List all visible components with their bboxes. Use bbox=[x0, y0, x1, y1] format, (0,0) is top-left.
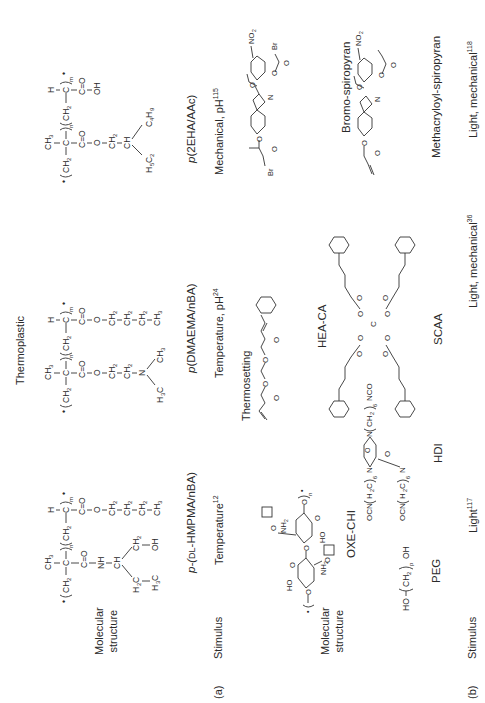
svg-text:C: C bbox=[61, 560, 71, 566]
thermoplastic-header: Thermoplastic bbox=[14, 316, 26, 385]
svg-text:C: C bbox=[398, 483, 407, 489]
svg-text:C: C bbox=[61, 317, 71, 323]
svg-text:H: H bbox=[365, 493, 374, 499]
svg-text:OH: OH bbox=[401, 546, 411, 559]
svg-text:H: H bbox=[131, 587, 141, 593]
svg-text:2: 2 bbox=[127, 500, 133, 504]
svg-text:CH: CH bbox=[122, 314, 132, 326]
svg-text:C: C bbox=[150, 575, 160, 581]
svg-text:•: • bbox=[303, 610, 312, 613]
svg-text:CH: CH bbox=[107, 504, 117, 516]
svg-text:m: m bbox=[68, 497, 74, 502]
svg-text:9: 9 bbox=[149, 107, 155, 111]
svg-text:O: O bbox=[364, 447, 371, 453]
svg-text:N: N bbox=[373, 97, 382, 102]
svg-text:O: O bbox=[302, 545, 311, 551]
svg-text:p: p bbox=[408, 562, 414, 566]
svg-text:•: • bbox=[59, 72, 69, 75]
svg-text:CH: CH bbox=[107, 314, 117, 326]
svg-text:n: n bbox=[68, 125, 74, 128]
svg-text:O: O bbox=[261, 381, 270, 387]
structure-label-line2: structure bbox=[332, 607, 346, 655]
name-suffix: -HMPMA/nBA) bbox=[185, 472, 197, 547]
stimulus-group-cinnamate: Light, mechanical36 bbox=[466, 215, 479, 308]
panel-a-structure-label: Molecular structure bbox=[92, 607, 120, 655]
svg-text:H: H bbox=[46, 317, 56, 323]
svg-text:6: 6 bbox=[372, 476, 378, 479]
polymer-name-hmpma-nba: p-(DL-HMPMA/nBA) bbox=[185, 472, 197, 573]
reference: 115 bbox=[212, 88, 219, 99]
panel-b-structure-label: Molecular structure bbox=[318, 607, 346, 655]
stimulus-text: Mechanical, pH bbox=[213, 99, 225, 175]
stimulus-dmaema-nba: Temperature, pH24 bbox=[212, 288, 225, 378]
svg-text:2: 2 bbox=[66, 157, 72, 161]
svg-text:CH: CH bbox=[401, 575, 411, 587]
svg-text:O: O bbox=[377, 72, 386, 78]
svg-text:•: • bbox=[59, 302, 69, 305]
svg-text:NO: NO bbox=[247, 33, 256, 44]
svg-text:CH: CH bbox=[137, 314, 147, 326]
svg-text:NO: NO bbox=[354, 35, 363, 46]
svg-text:CH: CH bbox=[152, 314, 162, 326]
svg-text:2: 2 bbox=[66, 335, 72, 339]
svg-text:O: O bbox=[92, 506, 102, 513]
svg-text:3: 3 bbox=[48, 554, 54, 558]
stimulus-group-chi-peg-hdi: Light117 bbox=[466, 498, 479, 533]
svg-text:2: 2 bbox=[66, 577, 72, 581]
svg-text:•: • bbox=[59, 180, 69, 183]
svg-text:2: 2 bbox=[136, 535, 142, 539]
svg-text:CH: CH bbox=[43, 368, 53, 380]
compound-name-oxe-chi: OXE-CHI bbox=[345, 510, 357, 558]
stimulus-2eha-aac: Mechanical, pH115 bbox=[212, 88, 225, 175]
compound-name-bromo-spiropyran: Bromo-spiropyran bbox=[340, 42, 352, 133]
stimulus-text: Light bbox=[467, 509, 479, 533]
figure-page: Thermoplastic Thermosetting Molecular st… bbox=[0, 0, 485, 703]
svg-text:•: • bbox=[59, 600, 69, 603]
svg-text:C=O: C=O bbox=[77, 130, 87, 148]
svg-text:O: O bbox=[373, 150, 382, 156]
structure-hmpma-nba: • CH2 C CH3 n CH2 C H m • C=O NH CH bbox=[40, 433, 175, 603]
svg-text:O: O bbox=[389, 62, 398, 68]
svg-text:O: O bbox=[355, 351, 364, 357]
svg-text:2: 2 bbox=[66, 525, 72, 529]
svg-text:HO: HO bbox=[285, 580, 294, 591]
svg-text:O: O bbox=[360, 140, 369, 146]
svg-text:H: H bbox=[144, 167, 154, 173]
svg-text:2: 2 bbox=[142, 500, 148, 504]
svg-text:O: O bbox=[355, 295, 364, 301]
svg-text:CH: CH bbox=[122, 137, 132, 149]
svg-text:3: 3 bbox=[160, 347, 166, 351]
svg-text:C: C bbox=[369, 321, 378, 327]
svg-text:C=O: C=O bbox=[77, 307, 87, 325]
structure-label-line1: Molecular bbox=[92, 607, 106, 655]
structure-peg: HO CH2 p OH bbox=[395, 531, 417, 611]
svg-text:2: 2 bbox=[283, 519, 289, 522]
reference: 24 bbox=[212, 288, 219, 296]
svg-text:2: 2 bbox=[149, 153, 155, 157]
svg-text:C=O: C=O bbox=[77, 497, 87, 515]
svg-text:CH: CH bbox=[43, 138, 53, 150]
svg-text:OCN: OCN bbox=[365, 503, 374, 521]
svg-text:CH: CH bbox=[131, 539, 141, 551]
svg-text:2: 2 bbox=[112, 310, 118, 314]
stimulus-text: Temperature bbox=[213, 503, 225, 565]
structure-bromo-spiropyran: Br O O N O O O Br NO2 bbox=[245, 3, 335, 178]
svg-text:N: N bbox=[266, 95, 275, 100]
structure-scaa: C OO OO O O O O bbox=[318, 233, 428, 423]
stimulus-text: Light, mechanical bbox=[467, 222, 479, 308]
svg-text:CH: CH bbox=[122, 504, 132, 516]
svg-text:HO: HO bbox=[401, 598, 411, 611]
svg-text:NH: NH bbox=[279, 522, 288, 533]
svg-text:Br: Br bbox=[266, 168, 275, 176]
svg-text:2: 2 bbox=[251, 29, 257, 32]
svg-text:NH: NH bbox=[319, 564, 328, 575]
svg-text:2: 2 bbox=[369, 489, 375, 492]
svg-text:2: 2 bbox=[406, 571, 412, 575]
reference: 118 bbox=[466, 41, 473, 52]
name-prefix: p-( bbox=[185, 559, 197, 573]
svg-text:H: H bbox=[46, 87, 56, 93]
svg-text:O: O bbox=[356, 335, 365, 341]
svg-text:2: 2 bbox=[127, 310, 133, 314]
svg-text:O: O bbox=[383, 451, 392, 457]
svg-text:N: N bbox=[398, 467, 407, 473]
